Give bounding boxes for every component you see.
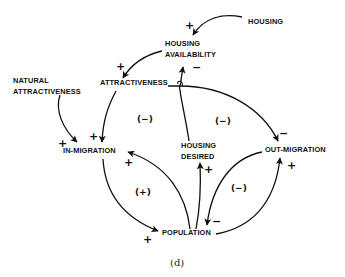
sign-housing-to-availability: + xyxy=(185,20,194,31)
sign-population-to-desired: + xyxy=(204,164,213,175)
edge-desired-to-availability xyxy=(179,67,189,141)
causal-loop-diagram: HOUSING HOUSING AVAILABILITY ATTRACTIVEN… xyxy=(0,0,345,277)
loop-outmigration-population: (−) xyxy=(231,183,247,193)
sign-desired-to-availability: − xyxy=(192,62,201,73)
sign-attractiveness-to-inmigration: + xyxy=(89,131,98,142)
sign-attractiveness-to-outmigration: − xyxy=(279,128,288,139)
sign-natural-to-inmigration: + xyxy=(58,138,67,149)
sign-outmigration-to-population: − xyxy=(212,216,221,227)
node-out-migration: OUT-MIGRATION xyxy=(265,145,326,155)
edge-housing-to-availability xyxy=(193,16,242,35)
edge-attractiveness-to-inmigration xyxy=(102,91,116,142)
figure-caption: (d) xyxy=(170,257,184,268)
sign-inmigration-to-population: + xyxy=(143,234,152,245)
loop-attractiveness-inmigration: (−) xyxy=(137,114,153,124)
node-housing-desired-line2: DESIRED xyxy=(181,152,215,162)
node-natural-attractiveness-line1: NATURAL xyxy=(13,76,49,86)
sign-availability-to-attractiveness: + xyxy=(116,61,125,72)
node-housing-availability-line2: AVAILABILITY xyxy=(165,50,216,60)
edge-population-to-outmigration xyxy=(216,158,280,234)
node-housing-desired-line1: HOUSING xyxy=(181,141,216,151)
node-attractiveness: ATTRACTIVENESS xyxy=(100,78,168,88)
node-in-migration: IN-MIGRATION xyxy=(63,146,116,156)
loop-inmigration-population: (+) xyxy=(135,187,151,197)
edge-natural-to-inmigration xyxy=(58,95,77,142)
sign-population-to-inmigration: + xyxy=(124,157,133,168)
node-housing-availability-line1: HOUSING xyxy=(165,39,200,49)
edge-population-to-desired xyxy=(196,163,200,229)
sign-population-to-outmigration: + xyxy=(287,160,296,171)
node-housing: HOUSING xyxy=(248,17,283,27)
node-natural-attractiveness-line2: ATTRACTIVENESS xyxy=(13,87,81,97)
edge-availability-to-attractiveness xyxy=(123,51,162,78)
loop-attractiveness-outmigration: (−) xyxy=(215,116,231,126)
node-population: POPULATION xyxy=(162,228,211,238)
